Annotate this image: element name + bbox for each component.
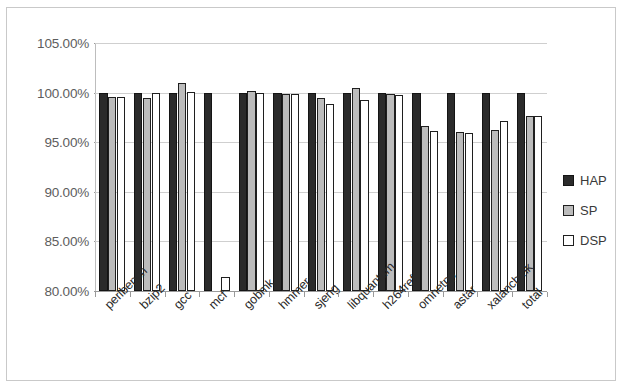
bar-group [517,43,543,291]
y-axis-tick-label: 80.00% [15,284,89,299]
bar-dsp [395,95,403,291]
bar-group [378,43,404,291]
y-axis-tick-label: 90.00% [15,184,89,199]
bar-group [99,43,125,291]
x-axis-tick-mark [95,292,96,297]
bar-hap [447,93,455,291]
x-axis-tick-mark [373,292,374,297]
y-axis-tick-label: 85.00% [15,234,89,249]
legend-swatch-icon [563,175,574,186]
legend-label: DSP [580,233,607,248]
bar-group [412,43,438,291]
bar-dsp [360,100,368,291]
bar-group [308,43,334,291]
chart-legend: HAPSPDSP [563,165,622,255]
x-axis-category-label: gcc [171,288,194,311]
bar-hap [308,93,316,291]
x-axis-tick-mark [547,292,548,297]
legend-swatch-icon [563,235,574,246]
x-axis-category-label: mcf [206,288,230,312]
plot-area [95,43,547,291]
bar-group [169,43,195,291]
bar-hap [412,93,420,291]
bar-dsp [465,133,473,291]
bar-dsp [187,92,195,291]
bar-group [343,43,369,291]
bar-dsp [117,97,125,291]
x-axis-tick-mark [269,292,270,297]
x-axis-tick-mark [408,292,409,297]
bar-sp [317,98,325,291]
bar-hap [99,93,107,291]
bar-group [273,43,299,291]
bar-hap [134,93,142,291]
legend-item-hap[interactable]: HAP [563,165,622,195]
x-axis-tick-mark [234,292,235,297]
bar-hap [169,93,177,291]
bar-group [239,43,265,291]
legend-item-dsp[interactable]: DSP [563,225,622,255]
x-axis-tick-mark [443,292,444,297]
bar-dsp [430,131,438,291]
bar-hap [343,93,351,291]
bar-dsp [221,277,229,291]
legend-swatch-icon [563,205,574,216]
x-axis-labels: perlbenchbzip2gccmcfgobmkhmmersjenglibqu… [95,292,547,389]
bar-group [447,43,473,291]
x-axis-tick-mark [512,292,513,297]
legend-label: HAP [580,173,607,188]
x-axis-tick-mark [304,292,305,297]
bar-dsp [500,121,508,291]
bar-sp [456,132,464,291]
y-axis-tick-label: 100.00% [15,85,89,100]
bar-dsp [534,116,542,291]
chart-frame: 105.00%100.00%95.00%90.00%85.00%80.00% p… [6,7,616,381]
x-axis-tick-mark [165,292,166,297]
x-axis-tick-mark [338,292,339,297]
bar-hap [482,93,490,291]
bar-dsp [291,94,299,291]
bar-dsp [326,104,334,291]
bar-dsp [152,93,160,291]
legend-item-sp[interactable]: SP [563,195,622,225]
y-axis-tick-label: 95.00% [15,135,89,150]
bar-hap [239,93,247,291]
bar-group [134,43,160,291]
bar-sp [491,130,499,291]
bar-dsp [256,93,264,291]
bar-group [482,43,508,291]
bar-sp [247,91,255,291]
bar-sp [108,97,116,291]
bar-sp [282,94,290,291]
bar-sp [352,88,360,291]
x-axis-tick-mark [477,292,478,297]
bar-sp [421,126,429,291]
bar-sp [178,83,186,291]
y-axis-tick-label: 105.00% [15,36,89,51]
x-axis-tick-mark [130,292,131,297]
y-axis-labels: 105.00%100.00%95.00%90.00%85.00%80.00% [11,8,89,389]
x-axis-tick-mark [199,292,200,297]
bar-sp [143,98,151,291]
bar-group [204,43,230,291]
bar-hap [273,93,281,291]
bar-hap [204,93,212,291]
legend-label: SP [580,203,597,218]
